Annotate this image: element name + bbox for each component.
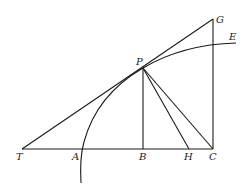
diagram-canvas: T A B H C P G E — [0, 0, 252, 189]
label-C: C — [209, 151, 217, 162]
segment-PC — [143, 68, 213, 149]
label-P: P — [135, 56, 143, 67]
label-T: T — [16, 151, 24, 162]
label-A: A — [71, 151, 79, 162]
label-G: G — [216, 14, 224, 25]
label-H: H — [183, 151, 193, 162]
label-E: E — [228, 31, 237, 42]
segment-TG — [22, 19, 213, 149]
segment-PH — [143, 68, 189, 149]
label-B: B — [138, 151, 146, 162]
geometry-diagram: T A B H C P G E — [0, 0, 252, 189]
